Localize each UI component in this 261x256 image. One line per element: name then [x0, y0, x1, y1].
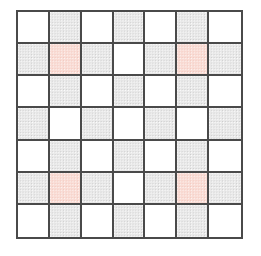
grid-cell[interactable] [50, 12, 82, 44]
grid-cell[interactable] [50, 76, 82, 108]
grid-cell[interactable] [177, 108, 209, 140]
grid-cell[interactable] [114, 173, 146, 205]
grid-cell[interactable] [114, 12, 146, 44]
checkerboard-grid [16, 10, 243, 239]
grid-cell[interactable] [209, 205, 241, 237]
grid-cell[interactable] [82, 205, 114, 237]
grid-figure [0, 0, 261, 256]
grid-cell[interactable] [18, 141, 50, 173]
grid-cell[interactable] [18, 44, 50, 76]
grid-cell[interactable] [209, 141, 241, 173]
grid-cell[interactable] [209, 44, 241, 76]
grid-cell[interactable] [18, 205, 50, 237]
grid-cell[interactable] [114, 141, 146, 173]
grid-cell[interactable] [50, 44, 82, 76]
grid-cell[interactable] [177, 44, 209, 76]
grid-cell[interactable] [209, 173, 241, 205]
grid-cell[interactable] [177, 12, 209, 44]
grid-cell[interactable] [114, 76, 146, 108]
grid-cell[interactable] [177, 141, 209, 173]
grid-cell[interactable] [82, 76, 114, 108]
grid-cell[interactable] [209, 12, 241, 44]
grid-cell[interactable] [209, 76, 241, 108]
grid-cell[interactable] [50, 205, 82, 237]
grid-cell[interactable] [82, 141, 114, 173]
grid-cell[interactable] [145, 76, 177, 108]
grid-cell[interactable] [18, 12, 50, 44]
grid-cell[interactable] [177, 173, 209, 205]
grid-cell[interactable] [50, 173, 82, 205]
grid-cell[interactable] [145, 141, 177, 173]
grid-cell[interactable] [82, 108, 114, 140]
grid-cell[interactable] [82, 173, 114, 205]
grid-cell[interactable] [177, 76, 209, 108]
grid-cell[interactable] [18, 108, 50, 140]
grid-cell[interactable] [114, 108, 146, 140]
grid-cell[interactable] [82, 44, 114, 76]
grid-cell[interactable] [50, 108, 82, 140]
grid-cell[interactable] [209, 108, 241, 140]
grid-cell[interactable] [177, 205, 209, 237]
grid-cell[interactable] [145, 173, 177, 205]
grid-cell[interactable] [145, 108, 177, 140]
grid-cell[interactable] [145, 44, 177, 76]
grid-cell[interactable] [145, 205, 177, 237]
grid-cell[interactable] [82, 12, 114, 44]
grid-cell[interactable] [50, 141, 82, 173]
grid-cell[interactable] [145, 12, 177, 44]
grid-cell[interactable] [114, 205, 146, 237]
grid-cell[interactable] [114, 44, 146, 76]
grid-cell[interactable] [18, 76, 50, 108]
grid-cell[interactable] [18, 173, 50, 205]
